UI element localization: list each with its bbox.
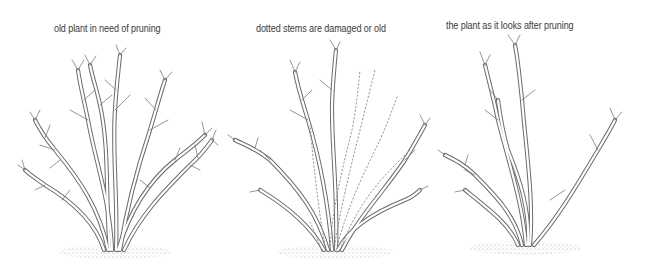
stems [18,45,218,250]
shrub-marked-illustration [220,0,435,272]
panel-marked-stems: dotted stems are damaged or old [220,0,435,272]
shrub-before-illustration [0,0,220,272]
stems [438,35,622,245]
shrub-after-illustration [430,0,649,272]
panel-after-pruning: the plant as it looks after pruning [430,0,649,272]
kept-stems [228,40,430,250]
panel-before-pruning: old plant in need of pruning [0,0,220,272]
